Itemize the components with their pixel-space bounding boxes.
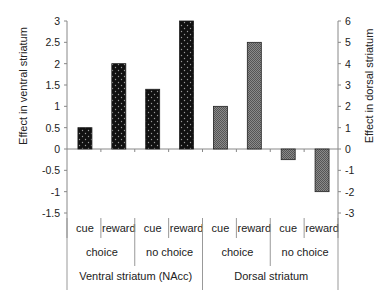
condition-label: choice xyxy=(86,246,118,258)
bar-label: cue xyxy=(76,222,94,234)
right-tick-label: 4 xyxy=(345,58,351,70)
bar-label: reward xyxy=(305,222,339,234)
bar-label: reward xyxy=(238,222,272,234)
bar xyxy=(78,128,92,149)
bar-label: cue xyxy=(212,222,230,234)
region-label: Ventral striatum (NAcc) xyxy=(79,270,192,282)
right-y-axis: 6543210-1-2-3 xyxy=(338,15,354,238)
right-tick-label: 2 xyxy=(345,100,351,112)
left-tick-label: -1 xyxy=(51,186,60,198)
right-tick-label: -3 xyxy=(345,207,354,219)
right-tick-label: 5 xyxy=(345,36,351,48)
bar-label: cue xyxy=(144,222,162,234)
bar-label: reward xyxy=(170,222,204,234)
bar-label: cue xyxy=(279,222,297,234)
left-tick-label: 3 xyxy=(54,15,60,27)
right-tick-label: -1 xyxy=(345,164,354,176)
left-axis-title: Effect in ventral striatum xyxy=(17,27,29,145)
bar xyxy=(247,42,261,149)
left-tick-label: -1.5 xyxy=(42,207,60,219)
x-axis-labels: cuerewardcuerewardcuerewardcuerewardchoi… xyxy=(67,218,339,290)
left-tick-label: 0.5 xyxy=(45,122,60,134)
bar xyxy=(146,89,160,149)
right-tick-label: 0 xyxy=(345,143,351,155)
condition-label: choice xyxy=(221,246,253,258)
region-label: Dorsal striatum xyxy=(234,270,308,282)
right-tick-label: 6 xyxy=(345,15,351,27)
bar-label: reward xyxy=(102,222,136,234)
condition-label: no choice xyxy=(282,246,329,258)
right-tick-label: 1 xyxy=(345,122,351,134)
bar xyxy=(112,64,126,149)
bar-chart: 32.521.510.50-0.5-1-1.5 6543210-1-2-3 cu… xyxy=(0,0,389,293)
bar xyxy=(281,149,295,160)
left-tick-label: 1 xyxy=(54,100,60,112)
condition-label: no choice xyxy=(146,246,193,258)
left-tick-label: -0.5 xyxy=(42,164,60,176)
right-tick-label: -2 xyxy=(345,186,354,198)
right-tick-label: 3 xyxy=(345,79,351,91)
left-tick-label: 2.5 xyxy=(45,36,60,48)
bar xyxy=(315,149,329,192)
bars xyxy=(78,21,329,192)
bar xyxy=(213,106,227,149)
bar xyxy=(180,21,194,149)
right-axis-title: Effect in dorsal striatum xyxy=(363,29,375,144)
left-tick-label: 2 xyxy=(54,58,60,70)
left-tick-label: 0 xyxy=(54,143,60,155)
left-tick-label: 1.5 xyxy=(45,79,60,91)
